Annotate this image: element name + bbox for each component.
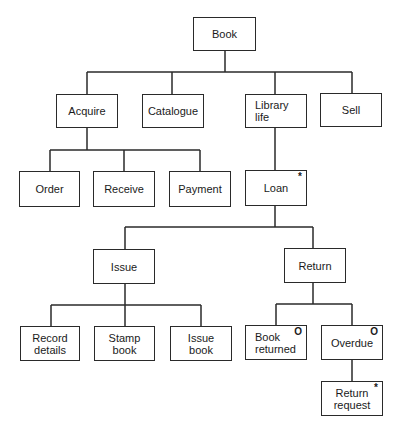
node-label: Record details [32,332,67,356]
node-record-details: Record details [20,326,80,361]
node-label: Receive [104,183,144,195]
node-label: Book [212,28,237,40]
node-label: Loan [264,182,288,194]
node-issue-book: Issue book [170,326,232,361]
selection-marker: O [370,327,378,337]
node-sell: Sell [320,93,382,127]
node-label: Library life [255,99,289,123]
node-label: Acquire [68,105,105,117]
selection-marker: O [294,327,302,337]
node-receive: Receive [93,171,155,207]
node-label: Payment [178,183,221,195]
node-label: Issue book [188,332,214,356]
node-book: Book [193,17,256,51]
node-issue: Issue [93,249,155,284]
node-stamp-book: Stamp book [94,326,155,361]
node-label: Overdue [331,337,373,349]
node-book-returned: Book returned O [245,325,307,360]
node-label: Sell [342,104,360,116]
node-library-life: Library life [245,94,307,128]
node-label: Return [298,260,331,272]
node-label: Stamp book [109,332,141,356]
node-label: Catalogue [148,105,198,117]
node-payment: Payment [169,171,231,207]
node-overdue: Overdue O [321,325,383,360]
node-label: Order [35,183,63,195]
node-return: Return [284,248,346,283]
node-label: Issue [111,261,137,273]
node-label: Return request [334,387,371,411]
node-loan: Loan * [245,170,307,206]
node-order: Order [19,171,80,207]
node-catalogue: Catalogue [142,94,204,128]
iteration-marker: * [298,172,302,182]
node-return-request: Return request * [321,381,383,416]
iteration-marker: * [374,383,378,393]
node-acquire: Acquire [56,94,118,128]
connector-lines [0,0,400,431]
node-label: Book returned [255,331,296,355]
